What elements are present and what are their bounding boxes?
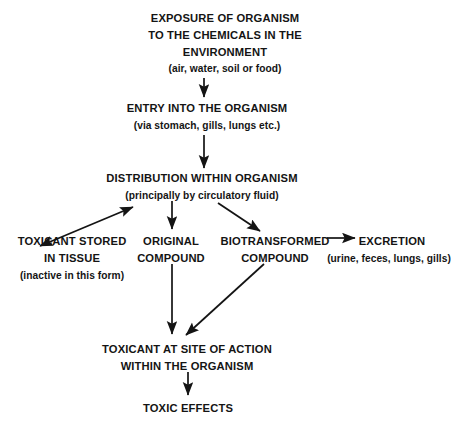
node-stored-line1: TOXICANT STORED: [18, 235, 127, 247]
node-site-line1: TOXICANT AT SITE OF ACTION: [102, 343, 272, 355]
node-exposure-line1: EXPOSURE OF ORGANISM: [151, 12, 299, 24]
node-exposure: EXPOSURE OF ORGANISM TO THE CHEMICALS IN…: [148, 12, 302, 74]
node-biotransformed-compound: BIOTRANSFORMED COMPOUND: [221, 235, 330, 264]
node-stored-line2: IN TISSUE: [44, 252, 100, 264]
node-toxic-effects: TOXIC EFFECTS: [143, 402, 233, 414]
node-site-of-action: TOXICANT AT SITE OF ACTION WITHIN THE OR…: [102, 343, 272, 372]
node-excretion-line1: EXCRETION: [359, 235, 426, 247]
flowchart-diagram: EXPOSURE OF ORGANISM TO THE CHEMICALS IN…: [0, 0, 452, 423]
node-biotransformed-line2: COMPOUND: [241, 252, 309, 264]
node-original-line2: COMPOUND: [137, 252, 205, 264]
node-distribution-line1: DISTRIBUTION WITHIN ORGANISM: [106, 172, 297, 184]
node-stored-detail: (inactive in this form): [20, 270, 124, 281]
node-entry-detail: (via stomach, gills, lungs etc.): [134, 120, 281, 131]
node-original-compound: ORIGINAL COMPOUND: [137, 235, 205, 264]
node-biotransformed-line1: BIOTRANSFORMED: [221, 235, 330, 247]
node-toxicant-stored: TOXICANT STORED IN TISSUE (inactive in t…: [18, 235, 127, 281]
edge-biotransformed-to-site: [186, 264, 264, 335]
node-original-line1: ORIGINAL: [143, 235, 199, 247]
node-exposure-line2: TO THE CHEMICALS IN THE: [148, 29, 302, 41]
node-excretion: EXCRETION (urine, feces, lungs, gills): [327, 235, 451, 264]
node-distribution-detail: (principally by circulatory fluid): [125, 190, 278, 201]
node-distribution: DISTRIBUTION WITHIN ORGANISM (principall…: [106, 172, 297, 201]
node-exposure-line3: ENVIRONMENT: [183, 46, 267, 58]
flowchart-canvas: EXPOSURE OF ORGANISM TO THE CHEMICALS IN…: [0, 0, 452, 423]
node-entry-line1: ENTRY INTO THE ORGANISM: [127, 102, 288, 114]
node-site-line2: WITHIN THE ORGANISM: [121, 360, 254, 372]
node-entry: ENTRY INTO THE ORGANISM (via stomach, gi…: [127, 102, 288, 131]
node-excretion-detail: (urine, feces, lungs, gills): [327, 253, 451, 264]
node-effects-line1: TOXIC EFFECTS: [143, 402, 233, 414]
node-exposure-detail: (air, water, soil or food): [169, 63, 282, 74]
edge-distribution-to-biotransformed: [218, 203, 260, 231]
